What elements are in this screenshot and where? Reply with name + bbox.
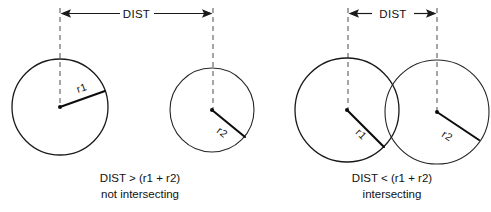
circle-intersection-diagram: DIST r1 r2 DIST > (r1 + r2) not intersec… [0,0,491,212]
caption-line-2: not intersecting [101,188,179,200]
caption-line-1: DIST < (r1 + r2) [352,172,432,184]
caption-line-1: DIST > (r1 + r2) [100,172,180,184]
caption-line-2: intersecting [363,188,422,200]
dist-label: DIST [379,8,406,20]
dist-label: DIST [123,8,150,20]
